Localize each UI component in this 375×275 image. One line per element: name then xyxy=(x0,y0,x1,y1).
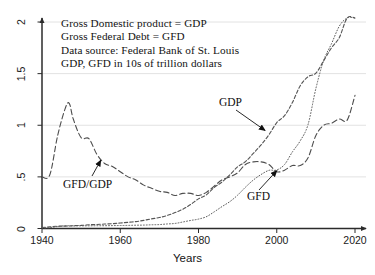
series-label-gdp: GDP xyxy=(219,96,242,108)
y-axis-tick-label: 1.5 xyxy=(15,63,27,85)
chart-note-line-1: Gross Domestic product = GDP xyxy=(61,17,239,30)
x-axis-title: Years xyxy=(0,252,375,264)
x-axis-tick-label: 2020 xyxy=(339,234,371,246)
chart-notes: Gross Domestic product = GDP Gross Feder… xyxy=(61,17,239,70)
x-axis-tick-label: 2000 xyxy=(261,234,293,246)
x-axis-tick-label: 1940 xyxy=(26,234,58,246)
chart-note-line-3: Data source: Federal Bank of St. Louis xyxy=(61,44,239,57)
chart-container: Gross Domestic product = GDP Gross Feder… xyxy=(0,0,375,275)
y-axis-tick-label: .5 xyxy=(15,166,27,188)
y-axis-tick-label: 1 xyxy=(15,114,27,136)
callout-arrow-gfd-gdp xyxy=(92,160,101,176)
x-axis-tick-label: 1980 xyxy=(183,234,215,246)
y-axis-tick-label: 0 xyxy=(15,218,27,240)
chart-note-line-2: Gross Federal Debt = GFD xyxy=(61,30,239,43)
callout-arrow-gdp xyxy=(236,110,265,130)
series-label-gfd: GFD xyxy=(247,190,270,202)
y-axis-tick-label: 2 xyxy=(15,11,27,33)
series-label-gfd-gdp-ratio: GFD/GDP xyxy=(63,178,112,190)
callout-arrows xyxy=(92,110,277,190)
x-axis-tick-label: 1960 xyxy=(104,234,136,246)
chart-note-line-4: GDP, GFD in 10s of trillion dollars xyxy=(61,57,239,70)
